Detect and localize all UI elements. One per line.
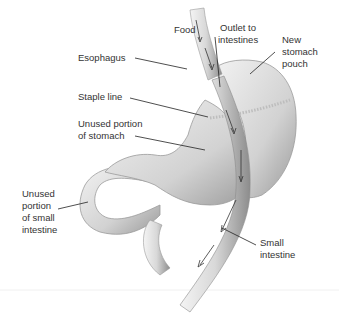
label-esophagus: Esophagus [78, 52, 126, 64]
label-new-stomach-pouch: New stomach pouch [282, 34, 318, 70]
label-small-intestine: Small intestine [260, 237, 295, 261]
intestine-connector [143, 220, 170, 275]
label-food: Food [174, 24, 196, 36]
label-unused-small-intestine: Unused portion of small intestine [22, 188, 57, 236]
label-outlet-to-intestines: Outlet to intestines [218, 22, 258, 46]
label-staple-line: Staple line [78, 91, 122, 103]
label-unused-stomach: Unused portion of stomach [78, 118, 142, 142]
